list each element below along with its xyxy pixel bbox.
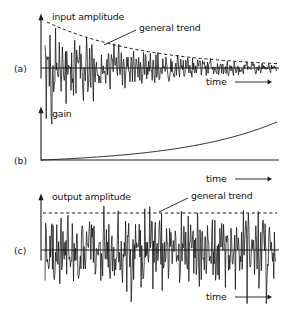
panel-b-label: (b) bbox=[14, 155, 27, 166]
panel-a-annotation-leader bbox=[104, 30, 136, 45]
panel-c-y-axis-label: output amplitude bbox=[52, 191, 131, 202]
panel-c-y-axis-arrowhead bbox=[38, 194, 43, 201]
panel-a-label: (a) bbox=[14, 63, 27, 74]
panel-c-annotation-leader bbox=[159, 198, 188, 212]
panel-c-annotation-label: general trend bbox=[191, 190, 253, 201]
panel-c-time-arrow-head bbox=[268, 295, 272, 300]
agc-figure: (a)input amplitudegeneral trendtime(b)ga… bbox=[0, 0, 288, 309]
panel-c-waveform bbox=[45, 206, 276, 303]
panel-a-y-axis-label: input amplitude bbox=[52, 11, 125, 22]
panel-a-y-axis-arrowhead bbox=[38, 14, 43, 21]
panel-c-x-axis-label: time bbox=[206, 291, 227, 302]
panel-b-gain-curve bbox=[41, 122, 277, 160]
panel-a-waveform bbox=[45, 28, 277, 124]
panel-b-time-arrow-head bbox=[268, 177, 272, 182]
panel-b-y-axis-label: gain bbox=[52, 108, 72, 119]
panel-b-y-axis-arrowhead bbox=[38, 107, 43, 114]
panel-b-x-axis-label: time bbox=[206, 173, 227, 184]
panel-c-label: (c) bbox=[14, 245, 26, 256]
panel-a-x-axis-label: time bbox=[206, 76, 227, 87]
panel-a-annotation-label: general trend bbox=[139, 22, 201, 33]
panel-a-time-arrow-head bbox=[268, 80, 272, 85]
figure-canvas: (a)input amplitudegeneral trendtime(b)ga… bbox=[0, 0, 288, 309]
